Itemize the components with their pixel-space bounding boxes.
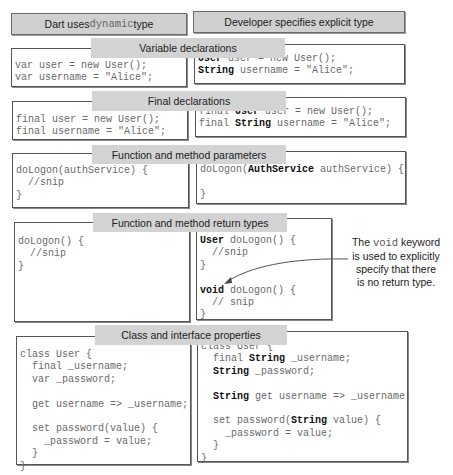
- void-keyword: void: [373, 237, 398, 249]
- return-types-left-box: doLogon() { //snip }: [14, 222, 190, 322]
- return-types-right-box: User doLogon() { //snip } void doLogon()…: [196, 218, 332, 320]
- column-header-dynamic-prefix: Dart uses: [45, 18, 90, 30]
- class-properties-left-box: class User { final _username; var _passw…: [16, 336, 191, 465]
- parameters-left-code: doLogon(authService) { //snip }: [16, 165, 148, 202]
- class-properties-right-code: class User { final String _username; Str…: [201, 341, 411, 465]
- column-header-dynamic-suffix: type: [134, 18, 154, 30]
- section-title-function-parameters: Function and method parameters: [92, 145, 286, 164]
- dynamic-keyword: dynamic: [89, 18, 133, 30]
- parameters-right-code: doLogon(AuthService authService) { }: [200, 164, 404, 201]
- section-title-class-properties: Class and interface properties: [95, 325, 287, 345]
- final-declarations-left-code: final user = new User(); final username …: [16, 114, 166, 139]
- class-properties-left-code: class User { final _username; var _passw…: [20, 349, 188, 473]
- column-header-explicit: Developer specifies explicit type: [193, 11, 405, 33]
- void-keyword-annotation: The void keyword is used to explicitly s…: [344, 236, 448, 289]
- return-types-right-code: User doLogon() { //snip } void doLogon()…: [200, 235, 296, 322]
- class-properties-right-box: class User { final String _username; Str…: [197, 331, 408, 462]
- column-header-explicit-label: Developer specifies explicit type: [224, 16, 373, 28]
- section-title-return-types: Function and method return types: [93, 213, 287, 232]
- return-types-left-code: doLogon() { //snip }: [18, 236, 84, 273]
- variable-declarations-left-code: var user = new User(); var username = "A…: [15, 60, 153, 85]
- section-title-variable-declarations: Variable declarations: [91, 38, 285, 58]
- column-header-dynamic: Dart uses dynamic type: [11, 13, 187, 35]
- section-title-final-declarations: Final declarations: [92, 91, 286, 111]
